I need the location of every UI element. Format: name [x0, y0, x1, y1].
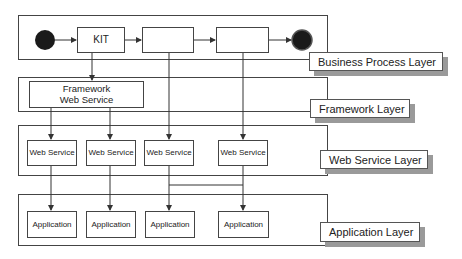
web-service-node-2: Web Service	[86, 140, 136, 166]
application-node-2: Application	[86, 211, 136, 238]
kit-node: KIT	[77, 27, 125, 53]
framework-web-service-line1: Framework	[63, 84, 111, 95]
framework-layer-label: Framework Layer	[310, 99, 410, 118]
web-service-layer-label: Web Service Layer	[320, 150, 428, 169]
web-service-node-4: Web Service	[218, 140, 268, 166]
end-node-icon	[292, 30, 312, 50]
web-service-node-3: Web Service	[144, 140, 194, 166]
business-process-layer-label: Business Process Layer	[309, 52, 443, 71]
application-node-3: Application	[145, 211, 195, 238]
web-service-node-1: Web Service	[27, 140, 77, 166]
start-node-icon	[35, 30, 55, 50]
application-node-1: Application	[27, 211, 77, 238]
framework-web-service-line2: Web Service	[60, 95, 114, 106]
process-step-2-node	[142, 27, 194, 53]
application-node-4: Application	[218, 211, 269, 238]
application-layer-label: Application Layer	[320, 222, 420, 242]
process-step-3-node	[216, 27, 269, 53]
framework-web-service-node: Framework Web Service	[29, 81, 144, 108]
